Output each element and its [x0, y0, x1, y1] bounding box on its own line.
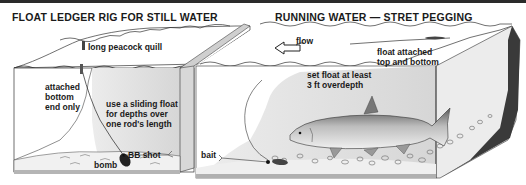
label-attached-3: end only	[45, 102, 80, 112]
label-bait: bait	[201, 150, 216, 160]
label-set-float-1: set float at least	[307, 70, 371, 80]
illustration	[0, 0, 526, 185]
label-attached-2: bottom	[45, 92, 74, 102]
label-float-attached-1: float attached	[377, 47, 432, 57]
label-bb-shot: BB shot	[128, 150, 161, 160]
label-attached-1: attached	[45, 82, 80, 92]
label-float-attached-2: top and bottom	[377, 57, 439, 67]
running-water-tank	[196, 22, 520, 178]
label-bomb: bomb	[94, 160, 117, 170]
title-running-water: RUNNING WATER — STRET PEGGING	[275, 11, 473, 23]
title-still-water: FLOAT LEDGER RIG FOR STILL WATER	[12, 11, 218, 23]
label-sliding-1: use a sliding float	[106, 99, 178, 109]
label-sliding-3: one rod's length	[106, 119, 172, 129]
diagram-frame: FLOAT LEDGER RIG FOR STILL WATER RUNNING…	[0, 0, 526, 185]
label-long-peacock-quill: long peacock quill	[88, 42, 162, 52]
label-flow: flow	[296, 36, 313, 46]
label-sliding-2: for depths over	[106, 109, 168, 119]
label-set-float-2: 3 ft overdepth	[307, 80, 363, 90]
